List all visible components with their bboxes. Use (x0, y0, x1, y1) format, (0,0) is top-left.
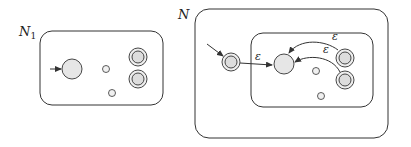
n1-label: N1 (18, 24, 36, 41)
epsilon-label: ε (255, 50, 261, 63)
n-state (313, 68, 320, 75)
n1-accept-state (129, 48, 147, 66)
epsilon-label: ε (323, 43, 329, 56)
n-inner-box (251, 33, 373, 107)
n-accept-state (336, 49, 354, 67)
nfa-n: N ε ε ε (177, 7, 388, 138)
n1-state (109, 90, 116, 97)
nfa-n1: N1 (18, 24, 163, 105)
n-accept-state (336, 71, 354, 89)
n1-start-state (62, 59, 82, 79)
n1-accept-state (129, 70, 147, 88)
n-state (318, 93, 325, 100)
n-outer-box (195, 9, 388, 138)
epsilon-transition (240, 63, 272, 65)
n-label: N (177, 7, 190, 22)
n-new-start-state (222, 53, 240, 71)
n-inner-start-state (274, 54, 294, 74)
n-start-arrow (207, 44, 223, 56)
n1-box (40, 31, 163, 105)
n1-state (103, 66, 110, 73)
epsilon-transition (289, 42, 338, 53)
epsilon-label: ε (332, 30, 338, 43)
nfa-union-diagram: N1 N ε (0, 0, 411, 147)
